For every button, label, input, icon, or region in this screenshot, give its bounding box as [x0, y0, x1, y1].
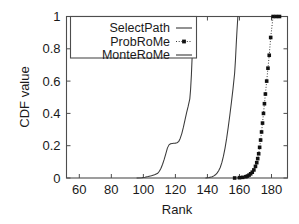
series-marker-probrome: [241, 176, 245, 180]
legend-marker-probrome: [182, 40, 186, 44]
series-marker-probrome: [267, 53, 271, 57]
series-marker-probrome: [269, 36, 273, 40]
series-marker-probrome: [256, 157, 260, 161]
legend-label-monterome: MonteRoMe: [102, 48, 170, 62]
x-tick-label: 120: [165, 182, 187, 197]
series-marker-probrome: [263, 102, 267, 106]
x-tick-label: 80: [104, 182, 118, 197]
legend-label-selectpath: SelectPath: [110, 21, 171, 35]
x-tick-label: 100: [133, 182, 155, 197]
x-axis-title: Rank: [162, 202, 193, 217]
series-marker-probrome: [264, 92, 268, 96]
series-marker-probrome: [265, 79, 269, 83]
chart-svg: 6080100120140160180 00.20.40.60.81 Selec…: [0, 0, 299, 224]
series-marker-probrome: [278, 15, 282, 19]
y-tick-label: 0.6: [42, 74, 60, 89]
series-marker-probrome: [255, 161, 259, 165]
series-marker-probrome: [260, 130, 264, 134]
series-marker-probrome: [257, 152, 261, 156]
y-axis-title: CDF value: [17, 66, 32, 127]
series-line-monterome: [206, 17, 238, 179]
data-markers-group: [233, 15, 281, 180]
y-tick-label: 0.8: [42, 41, 60, 56]
cdf-chart-figure: 6080100120140160180 00.20.40.60.81 Selec…: [0, 0, 299, 224]
y-tick-label: 0: [53, 171, 60, 186]
series-marker-probrome: [274, 15, 278, 19]
series-marker-probrome: [259, 138, 263, 142]
y-tick-label: 1: [53, 9, 60, 24]
series-marker-probrome: [233, 176, 237, 180]
series-marker-probrome: [254, 165, 258, 169]
y-tick-label: 0.2: [42, 138, 60, 153]
series-marker-probrome: [266, 66, 270, 70]
series-marker-probrome: [238, 176, 242, 180]
series-marker-probrome: [262, 112, 266, 116]
series-marker-probrome: [252, 168, 256, 172]
legend-label-probrome: ProbRoMe: [110, 35, 170, 49]
y-axis-tick-labels: 00.20.40.60.81: [42, 9, 60, 186]
series-marker-probrome: [258, 146, 262, 150]
x-tick-label: 140: [197, 182, 219, 197]
x-axis-tick-labels: 6080100120140160180: [72, 182, 282, 197]
x-tick-label: 160: [229, 182, 251, 197]
x-tick-label: 60: [72, 182, 86, 197]
series-marker-probrome: [261, 121, 265, 125]
y-tick-label: 0.4: [42, 106, 60, 121]
x-tick-label: 180: [261, 182, 283, 197]
series-marker-probrome: [271, 15, 275, 19]
